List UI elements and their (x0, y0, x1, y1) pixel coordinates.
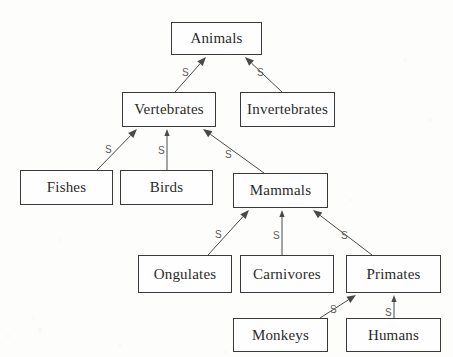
edge-label-carnivores-mammals: S (273, 231, 280, 241)
node-mammals[interactable]: Mammals (233, 173, 328, 208)
edge-line (97, 135, 131, 170)
edge-arrowhead (203, 129, 212, 137)
edge-arrowhead (313, 210, 322, 218)
edge-label-primates-mammals: S (341, 231, 348, 241)
edge-label-monkeys-primates: S (330, 305, 337, 315)
node-vertebrates[interactable]: Vertebrates (122, 92, 216, 127)
node-fishes[interactable]: Fishes (20, 170, 113, 205)
edge-line (208, 217, 243, 255)
edge-label-birds-vertebrates: S (158, 146, 165, 156)
edge-arrowhead (346, 295, 356, 303)
edge-label-humans-primates: S (385, 308, 392, 318)
edge-label-mammals-vertebrates: S (225, 150, 232, 160)
edge-arrowhead (164, 129, 169, 136)
edge-label-fishes-vertebrates: S (105, 145, 112, 155)
node-humans[interactable]: Humans (346, 318, 441, 352)
edge-label-invertebrates-animals: S (257, 68, 264, 78)
edge-birds-vertebrates (164, 129, 169, 170)
edge-arrowhead (279, 210, 284, 217)
edge-humans-primates (391, 295, 396, 318)
node-carnivores[interactable]: Carnivores (240, 255, 334, 293)
node-invertebrates[interactable]: Invertebrates (240, 92, 335, 127)
edge-line (210, 134, 264, 173)
node-monkeys[interactable]: Monkeys (233, 318, 328, 352)
edge-vertebrates-animals (175, 57, 206, 92)
edge-mammals-vertebrates (203, 129, 264, 173)
diagram-canvas: AnimalsVertebratesInvertebratesFishesBir… (0, 0, 453, 357)
edge-label-ongulates-mammals: S (215, 230, 222, 240)
edge-label-vertebrates-animals: S (182, 68, 189, 78)
node-primates[interactable]: Primates (346, 255, 441, 293)
edge-arrowhead (391, 295, 396, 302)
edge-carnivores-mammals (279, 210, 284, 255)
edge-fishes-vertebrates (97, 129, 137, 170)
node-birds[interactable]: Birds (120, 170, 213, 205)
edge-monkeys-primates (320, 295, 356, 318)
node-animals[interactable]: Animals (171, 22, 262, 55)
node-ongulates[interactable]: Ongulates (138, 255, 232, 293)
